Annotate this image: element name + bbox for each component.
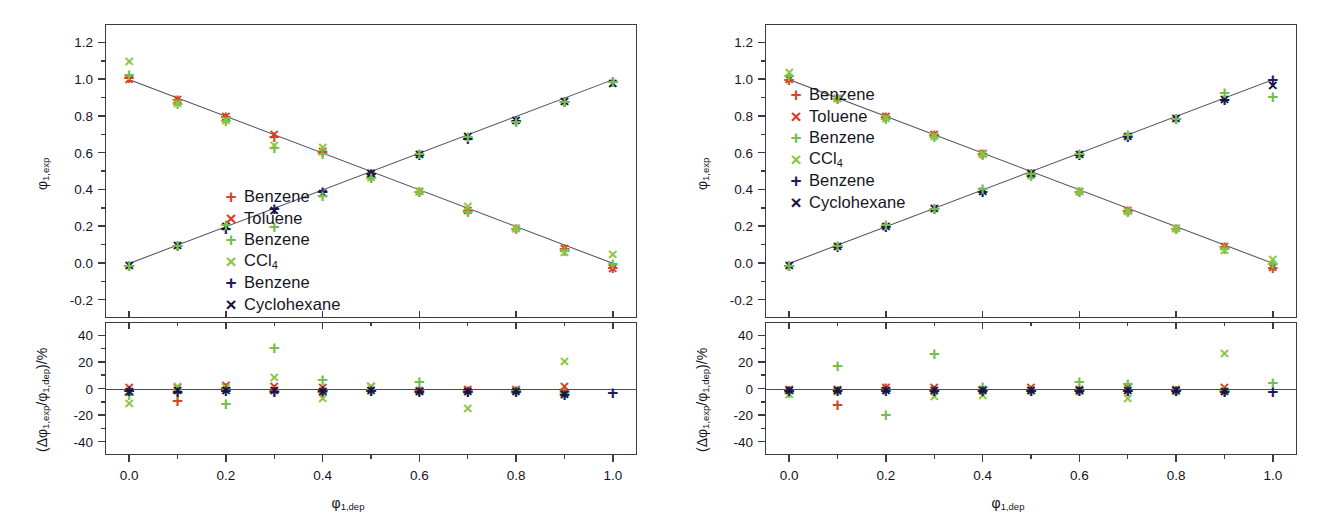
data-point: + — [172, 383, 183, 402]
legend-item[interactable]: ×Cyclohexane — [783, 192, 906, 214]
data-point: × — [1171, 381, 1181, 398]
data-point: × — [511, 381, 521, 398]
legend-item[interactable]: +Benzene — [218, 229, 341, 251]
legend-plus-marker-icon: + — [783, 171, 809, 190]
y-tick-label: 20 — [707, 354, 753, 369]
x-tick-major — [982, 455, 984, 462]
data-point: + — [784, 383, 795, 402]
x-tick-minor — [370, 322, 372, 326]
data-point: + — [269, 382, 280, 401]
data-point: + — [124, 68, 135, 87]
data-point: × — [1123, 389, 1133, 406]
data-point: + — [784, 66, 795, 85]
y-tick-major — [98, 262, 105, 264]
legend-cross-marker-icon: × — [783, 150, 809, 169]
x-tick-major — [788, 311, 790, 318]
data-point: × — [221, 381, 231, 398]
x-tick-label: 0.8 — [507, 468, 526, 483]
data-point: × — [1123, 379, 1133, 396]
y-tick-label: 0.2 — [707, 219, 753, 234]
y-tick-minor — [101, 207, 105, 209]
data-point: × — [366, 381, 376, 398]
data-point: × — [269, 368, 279, 385]
data-point: + — [559, 239, 570, 258]
legend-item[interactable]: ×Toluene — [218, 208, 341, 230]
x-tick-major — [128, 322, 130, 329]
data-point: + — [462, 380, 473, 399]
data-point: + — [124, 380, 135, 399]
x-tick-label: 0.6 — [1070, 468, 1089, 483]
data-point: + — [880, 378, 891, 397]
x-tick-label: 1.0 — [603, 468, 622, 483]
data-point: × — [784, 63, 794, 80]
x-tick-major — [788, 322, 790, 329]
y-tick-major — [98, 361, 105, 363]
zero-reference-line — [105, 389, 637, 390]
x-tick-major — [885, 322, 887, 329]
data-point: + — [832, 355, 843, 374]
x-tick-major — [128, 455, 130, 462]
x-tick-major — [612, 311, 614, 318]
x-tick-minor — [1127, 322, 1129, 326]
y-tick-minor — [101, 348, 105, 350]
legend-item[interactable]: ×CCl4 — [783, 149, 906, 171]
x-tick-major — [885, 455, 887, 462]
y-tick-label: -40 — [47, 434, 93, 449]
data-point: × — [929, 381, 939, 398]
y-tick-minor — [101, 97, 105, 99]
figure-canvas: +++++++++++×××××××××××+++++++++++×××××××… — [0, 0, 1320, 530]
y-tick-major — [758, 262, 765, 264]
data-point: + — [172, 391, 183, 410]
data-point: × — [1171, 383, 1181, 400]
x-tick-major — [419, 455, 421, 462]
data-point: + — [559, 92, 570, 111]
data-point: + — [1171, 380, 1182, 399]
data-point: + — [1025, 380, 1036, 399]
legend-cross-marker-icon: × — [218, 209, 244, 228]
y-tick-major — [758, 42, 765, 44]
data-point: + — [559, 92, 570, 111]
x-tick-major — [788, 455, 790, 462]
legend-item[interactable]: +Benzene — [218, 272, 341, 294]
data-point: × — [221, 379, 231, 396]
data-point: + — [1171, 380, 1182, 399]
x-tick-major — [128, 311, 130, 318]
data-point: × — [463, 383, 473, 400]
x-tick-major — [1079, 311, 1081, 318]
left-bottom-data-layer: ++++++++++××××××××××++++++++++××××××××××… — [105, 322, 637, 455]
y-tick-minor — [101, 281, 105, 283]
y-tick-label: 0 — [47, 381, 93, 396]
data-point: × — [559, 352, 569, 369]
data-point: + — [414, 380, 425, 399]
x-tick-major — [885, 311, 887, 318]
legend-label: Benzene — [809, 171, 875, 190]
y-tick-major — [758, 299, 765, 301]
x-tick-major — [982, 311, 984, 318]
x-tick-major — [612, 455, 614, 462]
data-point: + — [559, 384, 570, 403]
data-point: × — [784, 381, 794, 398]
data-point: + — [784, 380, 795, 399]
x-tick-minor — [467, 322, 469, 326]
legend-item[interactable]: ×CCl4 — [218, 251, 341, 273]
data-point: + — [1122, 380, 1133, 399]
legend-item[interactable]: ×Toluene — [783, 106, 906, 128]
y-tick-label: 1.0 — [707, 72, 753, 87]
legend-item[interactable]: +Benzene — [783, 84, 906, 106]
y-tick-minor — [761, 244, 765, 246]
legend-item[interactable]: +Benzene — [783, 170, 906, 192]
legend-item[interactable]: +Benzene — [783, 127, 906, 149]
legend-cross-marker-icon: × — [783, 193, 809, 212]
data-point: × — [929, 388, 939, 405]
data-point: × — [1268, 76, 1278, 93]
legend-item[interactable]: ×Cyclohexane — [218, 294, 341, 316]
data-point: × — [929, 379, 939, 396]
data-point: + — [317, 370, 328, 389]
data-point: × — [124, 256, 134, 273]
data-point: × — [1026, 381, 1036, 398]
legend-item[interactable]: +Benzene — [218, 186, 341, 208]
y-tick-major — [98, 225, 105, 227]
legend-label: Toluene — [809, 107, 868, 126]
data-point: × — [124, 379, 134, 396]
y-tick-label: 1.2 — [707, 35, 753, 50]
